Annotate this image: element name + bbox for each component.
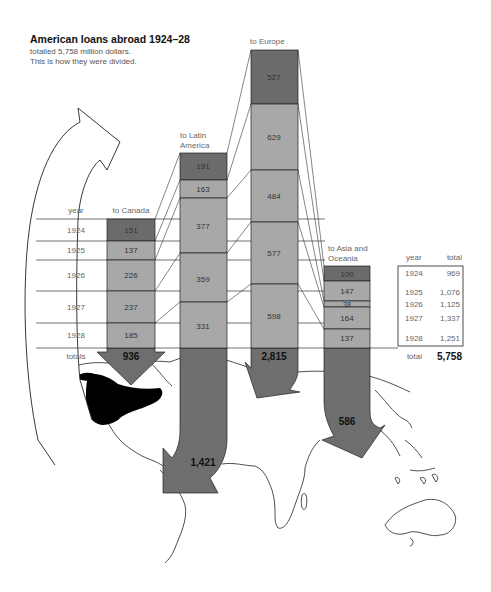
asia-header-1: to Asia and bbox=[328, 244, 368, 253]
asia-1927: 164 bbox=[340, 314, 354, 323]
asia-1928: 137 bbox=[340, 334, 354, 343]
right-total-1927: 1,337 bbox=[440, 314, 461, 323]
right-total-1925: 1,076 bbox=[440, 288, 461, 297]
year-header: year bbox=[68, 206, 84, 215]
europe-1927: 577 bbox=[267, 249, 281, 258]
right-total-1924: 969 bbox=[447, 269, 461, 278]
latin-america-total: 1,421 bbox=[190, 457, 215, 468]
asia-1924: 100 bbox=[340, 270, 354, 279]
chart-canvas: year 1924 1925 1926 1927 1928 totals to … bbox=[0, 0, 491, 592]
right-year-1927: 1927 bbox=[405, 314, 423, 323]
right-total-header: total bbox=[447, 253, 462, 262]
right-year-1926: 1926 bbox=[405, 300, 423, 309]
latin-america-1925: 163 bbox=[196, 185, 210, 194]
europe-1924: 527 bbox=[267, 73, 281, 82]
right-total-1926: 1,125 bbox=[440, 300, 461, 309]
canada-total: 936 bbox=[123, 351, 140, 362]
latin-america-1928: 331 bbox=[196, 322, 210, 331]
right-year-1924: 1924 bbox=[405, 269, 423, 278]
canada-1924: 151 bbox=[124, 226, 138, 235]
year-1925: 1925 bbox=[67, 246, 85, 255]
latin-america-1924: 191 bbox=[196, 162, 210, 171]
europe-1926: 484 bbox=[267, 192, 281, 201]
latin-america-1926: 377 bbox=[196, 222, 210, 231]
canada-1925: 137 bbox=[124, 246, 138, 255]
canada-1926: 226 bbox=[124, 271, 138, 280]
europe-header: to Europe bbox=[250, 37, 285, 46]
canada-1927: 237 bbox=[124, 303, 138, 312]
right-year-1925: 1925 bbox=[405, 288, 423, 297]
europe-total: 2,815 bbox=[261, 351, 286, 362]
latin-america-header-1: to Latin bbox=[180, 131, 206, 140]
grand-total-label: total bbox=[407, 352, 422, 361]
asia-1926: 38 bbox=[343, 301, 351, 308]
year-1926: 1926 bbox=[67, 271, 85, 280]
latin-america-header-2: America bbox=[180, 141, 210, 150]
latin-america-1927: 359 bbox=[196, 275, 210, 284]
year-1928: 1928 bbox=[67, 331, 85, 340]
year-1927: 1927 bbox=[67, 303, 85, 312]
canada-column bbox=[107, 219, 155, 348]
right-year-header: year bbox=[406, 253, 422, 262]
asia-header-2: Oceania bbox=[328, 254, 358, 263]
right-total-1928: 1,251 bbox=[440, 334, 461, 343]
canada-header: to Canada bbox=[113, 206, 150, 215]
latin-america-column bbox=[180, 153, 227, 348]
europe-1928: 598 bbox=[267, 312, 281, 321]
asia-1925: 147 bbox=[340, 287, 354, 296]
right-year-1928: 1928 bbox=[405, 334, 423, 343]
totals-label: totals bbox=[66, 352, 85, 361]
year-1924: 1924 bbox=[67, 226, 85, 235]
asia-total: 586 bbox=[339, 416, 356, 427]
canada-1928: 185 bbox=[124, 331, 138, 340]
grand-total-value: 5,758 bbox=[437, 351, 462, 362]
asia-arrow bbox=[322, 348, 385, 458]
latin-america-arrow bbox=[163, 348, 227, 493]
usa-shape bbox=[86, 374, 162, 425]
europe-1925: 629 bbox=[267, 133, 281, 142]
